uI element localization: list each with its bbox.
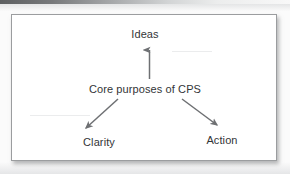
arrow-center-to-action: [182, 99, 217, 125]
node-label-clarity: Clarity: [59, 136, 139, 149]
arrow-center-to-clarity: [86, 99, 118, 128]
scan-top-fade: [0, 4, 290, 11]
node-label-action: Action: [182, 134, 262, 147]
diagram-frame: Ideas Core purposes of CPS Clarity Actio…: [11, 14, 277, 161]
scan-bottom-fade: [0, 162, 290, 174]
scan-top-band: [0, 0, 290, 4]
node-label-ideas: Ideas: [12, 28, 278, 41]
node-label-core-purposes: Core purposes of CPS: [12, 83, 278, 96]
